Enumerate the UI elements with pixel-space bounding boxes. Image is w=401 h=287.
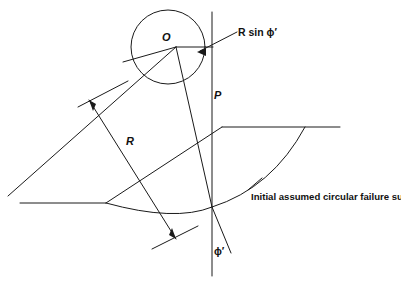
diagram-canvas <box>0 0 401 287</box>
label-force-p: P <box>214 89 221 103</box>
label-center-o: O <box>162 31 171 45</box>
radius-dimension-line <box>89 100 176 239</box>
label-failure-surface-caption: Initial assumed circular failure surface <box>251 191 401 203</box>
slant-line-to-convergence <box>176 47 212 207</box>
label-radius-r: R <box>126 135 134 149</box>
r-sin-phi-leader-line <box>200 32 237 51</box>
label-friction-angle-phi: ϕ′ <box>214 245 224 258</box>
r-sin-phi-arrowhead <box>197 48 206 56</box>
slope-face-line <box>106 127 222 203</box>
figure-container: O P R R sin ϕ′ ϕ′ Initial assumed circul… <box>0 0 401 287</box>
dimension-tick-top <box>78 81 128 107</box>
dimension-tick-bottom <box>152 226 198 249</box>
label-r-sin-phi: R sin ϕ′ <box>238 26 277 39</box>
caption-leader-line <box>248 178 262 190</box>
